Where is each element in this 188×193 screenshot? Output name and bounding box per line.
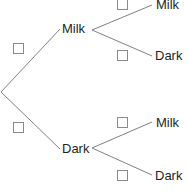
- branch-root-to-milk-line: [1, 29, 60, 92]
- label-second-milk-milk: Milk: [156, 0, 179, 11]
- prob-box-milk-milk[interactable]: [117, 0, 128, 10]
- label-second-dark-dark: Dark: [155, 169, 182, 182]
- label-first-dark: Dark: [62, 142, 89, 155]
- prob-box-milk-first[interactable]: [13, 43, 24, 54]
- tree-branches-group: [0, 0, 188, 193]
- label-second-dark-milk: Milk: [156, 116, 179, 129]
- branch-root-to-dark-line: [1, 92, 60, 149]
- prob-box-dark-first[interactable]: [13, 122, 24, 133]
- label-first-milk: Milk: [62, 22, 85, 35]
- prob-box-dark-dark[interactable]: [117, 170, 128, 181]
- prob-box-milk-dark[interactable]: [117, 50, 128, 61]
- probability-tree-diagram: Milk Dark Milk Dark Milk Dark: [0, 0, 188, 193]
- label-second-milk-dark: Dark: [155, 49, 182, 62]
- prob-box-dark-milk[interactable]: [117, 117, 128, 128]
